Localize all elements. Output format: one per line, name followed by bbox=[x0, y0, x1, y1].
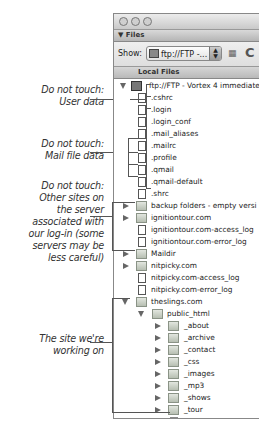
tree-row[interactable]: _tour bbox=[114, 404, 259, 416]
bracket-tick bbox=[112, 298, 130, 299]
expand-down-icon[interactable] bbox=[120, 83, 126, 89]
annotation-line: The site we're bbox=[39, 333, 104, 345]
tree-row[interactable]: .login_conf bbox=[114, 116, 259, 128]
expand-down-icon[interactable] bbox=[138, 311, 144, 317]
expand-right-icon[interactable] bbox=[123, 203, 129, 209]
item-name: .qmail bbox=[151, 164, 174, 176]
server-icon bbox=[149, 49, 159, 58]
site-select-value: ftp://FTP -... bbox=[161, 50, 207, 59]
files-toolbar: Show: ftp://FTP -... ▲▼ ▦ C bbox=[114, 42, 259, 67]
expand-right-icon[interactable] bbox=[123, 215, 129, 221]
zoom-button[interactable] bbox=[143, 17, 152, 26]
expand-down-icon[interactable] bbox=[122, 299, 128, 305]
expand-right-icon[interactable] bbox=[155, 371, 161, 377]
folder-icon bbox=[168, 393, 179, 403]
bracket-join bbox=[130, 99, 146, 100]
panel-title: Files bbox=[126, 31, 145, 39]
tree-row[interactable]: nitpicky.com-access_log bbox=[114, 272, 259, 284]
expand-right-icon[interactable] bbox=[155, 359, 161, 365]
annotation-working-site: The site we're working on bbox=[39, 333, 104, 357]
annotation-line: the server bbox=[29, 204, 105, 216]
folder-icon bbox=[168, 369, 179, 379]
item-name: ignitiontour.com-error_log bbox=[151, 236, 247, 248]
file-icon bbox=[138, 117, 146, 127]
site-select[interactable]: ftp://FTP -... ▲▼ bbox=[146, 46, 222, 61]
tree-row[interactable]: .cshrc bbox=[114, 92, 259, 104]
tree-row[interactable]: nitpicky.com-error_log bbox=[114, 284, 259, 296]
files-panel-header[interactable]: ▼ Files bbox=[114, 30, 259, 42]
leader-other-sites bbox=[90, 216, 112, 217]
folder-icon bbox=[136, 249, 147, 259]
expand-right-icon[interactable] bbox=[155, 395, 161, 401]
bracket-tick bbox=[128, 138, 138, 139]
tree-row[interactable]: _archive bbox=[114, 332, 259, 344]
tree-row[interactable]: about.html bbox=[114, 416, 259, 419]
expand-right-icon[interactable] bbox=[155, 383, 161, 389]
bracket-other-sites bbox=[112, 202, 113, 250]
folder-icon bbox=[168, 405, 179, 415]
annotation-line: User data bbox=[41, 96, 104, 108]
bracket-tick bbox=[146, 108, 151, 109]
tree-row[interactable]: ignitiontour.com bbox=[114, 212, 259, 224]
file-icon bbox=[138, 273, 146, 283]
html-file-icon bbox=[170, 417, 178, 419]
tree-row[interactable]: _shows bbox=[114, 392, 259, 404]
tree-row[interactable]: _mp3 bbox=[114, 380, 259, 392]
local-files-header[interactable]: Local Files bbox=[114, 67, 259, 79]
file-icon bbox=[138, 129, 146, 139]
tree-row[interactable]: .mailrc bbox=[114, 140, 259, 152]
item-name: about.html bbox=[184, 416, 225, 419]
close-button[interactable] bbox=[119, 17, 128, 26]
tree-row[interactable]: _about bbox=[114, 320, 259, 332]
item-name: public_html bbox=[167, 308, 210, 320]
minimize-button[interactable] bbox=[131, 17, 140, 26]
expand-right-icon[interactable] bbox=[123, 263, 129, 269]
tree-row[interactable]: ignitiontour.com-access_log bbox=[114, 224, 259, 236]
annotation-mail-data: Do not touch: Mail file data bbox=[41, 138, 104, 162]
bracket-working-site bbox=[112, 298, 113, 412]
tree-row[interactable]: public_html bbox=[114, 308, 259, 320]
expand-right-icon[interactable] bbox=[123, 251, 129, 257]
bracket-tick bbox=[128, 164, 138, 165]
file-icon bbox=[138, 105, 146, 115]
expand-right-icon[interactable] bbox=[155, 335, 161, 341]
folder-icon bbox=[168, 321, 179, 331]
tree-row[interactable]: Maildir bbox=[114, 248, 259, 260]
root-label: ftp://FTP - Vortex 4 immediate C bbox=[149, 80, 259, 92]
tree-row[interactable]: .login bbox=[114, 104, 259, 116]
bracket-tick bbox=[112, 412, 170, 413]
tree-row[interactable]: _contact bbox=[114, 344, 259, 356]
tree-row[interactable]: .shrc bbox=[114, 188, 259, 200]
item-name: .login_conf bbox=[151, 116, 191, 128]
show-label: Show: bbox=[118, 49, 142, 58]
tree-row[interactable]: _css bbox=[114, 356, 259, 368]
bracket-tick bbox=[128, 152, 138, 153]
connect-icon[interactable]: ▦ bbox=[228, 48, 237, 58]
annotation-other-sites: Do not touch: Other sites on the server … bbox=[29, 180, 105, 264]
expand-right-icon[interactable] bbox=[155, 323, 161, 329]
item-name: _tour bbox=[184, 404, 203, 416]
tree-row[interactable]: .profile bbox=[114, 152, 259, 164]
tree-row[interactable]: theslings.com bbox=[114, 296, 259, 308]
annotation-line: associated with bbox=[29, 216, 105, 228]
refresh-icon[interactable]: C bbox=[245, 45, 255, 60]
folder-icon bbox=[168, 345, 179, 355]
folder-icon bbox=[168, 333, 179, 343]
tree-row[interactable]: backup folders - empty versi bbox=[114, 200, 259, 212]
item-name: _contact bbox=[184, 344, 215, 356]
item-name: _mp3 bbox=[184, 380, 204, 392]
tree-row[interactable]: ignitiontour.com-error_log bbox=[114, 236, 259, 248]
item-name: .shrc bbox=[151, 188, 169, 200]
folder-icon bbox=[136, 261, 147, 271]
item-name: nitpicky.com-access_log bbox=[151, 272, 239, 284]
item-name: .login bbox=[151, 104, 171, 116]
tree-row[interactable]: .qmail-default bbox=[114, 176, 259, 188]
tree-row[interactable]: .qmail bbox=[114, 164, 259, 176]
tree-row[interactable]: nitpicky.com bbox=[114, 260, 259, 272]
tree-root[interactable]: ftp://FTP - Vortex 4 immediate C bbox=[114, 80, 259, 92]
expand-right-icon[interactable] bbox=[155, 347, 161, 353]
tree-row[interactable]: _images bbox=[114, 368, 259, 380]
item-name: ignitiontour.com-access_log bbox=[151, 224, 254, 236]
item-name: ignitiontour.com bbox=[151, 212, 211, 224]
folder-icon bbox=[136, 297, 147, 307]
